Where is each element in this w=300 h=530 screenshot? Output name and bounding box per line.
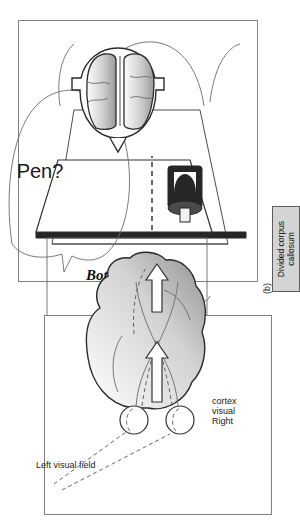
- label-right-visual-cortex: Right visual cortex: [212, 396, 237, 426]
- panel-c-artwork: Left visual field Right visual cortex: [0, 0, 281, 530]
- leader-line-upper: [54, 432, 126, 484]
- eyeballs: [120, 406, 194, 434]
- rvc-line-3: cortex: [212, 396, 237, 406]
- figure-canvas: (b) Divided corpus callosum: [0, 0, 281, 530]
- rvc-line-2: visual: [212, 406, 235, 416]
- label-left-visual-field: Left visual field: [36, 460, 96, 470]
- rvc-line-1: Right: [212, 416, 234, 426]
